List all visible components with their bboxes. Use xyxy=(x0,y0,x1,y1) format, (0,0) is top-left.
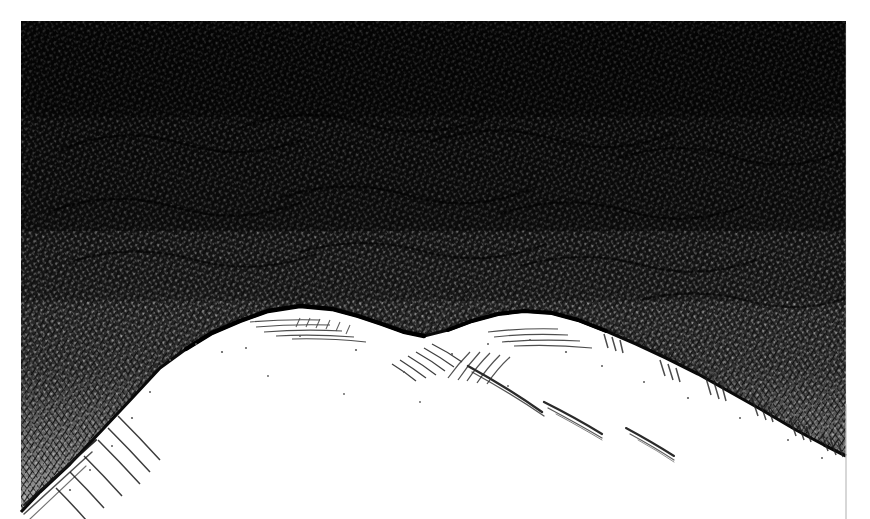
artwork-canvas xyxy=(0,0,870,519)
sky-final-veil xyxy=(21,21,846,301)
ink-drawing xyxy=(0,0,870,519)
